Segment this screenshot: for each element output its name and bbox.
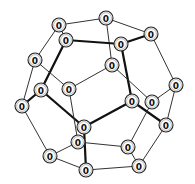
graph-node: 0: [62, 82, 76, 96]
node-label: 0: [47, 152, 53, 162]
node-label: 0: [56, 21, 62, 31]
graph-node: 0: [105, 58, 119, 72]
edge-E-L: [121, 44, 132, 101]
graph-node: 0: [34, 83, 48, 97]
node-label: 0: [129, 97, 135, 107]
node-label: 0: [149, 98, 155, 108]
node-label: 0: [32, 56, 38, 66]
edge-K-R: [22, 106, 50, 156]
edge-L-N: [84, 101, 132, 127]
nodes-layer: 00000000000000000000: [15, 11, 183, 177]
edge-D-I: [41, 40, 66, 90]
graph-node: 0: [169, 78, 183, 92]
graph-node: 0: [144, 27, 158, 41]
graph-node: 0: [43, 149, 57, 163]
node-label: 0: [103, 14, 109, 24]
dodecahedron-graph: 00000000000000000000: [0, 0, 195, 184]
node-label: 0: [136, 162, 142, 172]
edge-D-E: [66, 40, 121, 44]
graph-node: 0: [79, 163, 93, 177]
edge-C-H: [151, 34, 176, 85]
node-label: 0: [125, 143, 131, 153]
node-label: 0: [173, 81, 179, 91]
node-label: 0: [38, 86, 44, 96]
graph-node: 0: [145, 95, 159, 109]
node-label: 0: [63, 36, 69, 46]
edge-M-Q: [128, 102, 152, 147]
graph-node: 0: [28, 53, 42, 67]
node-label: 0: [83, 166, 89, 176]
node-label: 0: [118, 40, 124, 50]
graph-node: 0: [99, 11, 113, 25]
node-label: 0: [81, 123, 87, 133]
graph-node: 0: [52, 18, 66, 32]
node-label: 0: [75, 138, 81, 148]
graph-node: 0: [121, 140, 135, 154]
node-label: 0: [66, 85, 72, 95]
graph-node: 0: [15, 99, 29, 113]
node-label: 0: [163, 121, 169, 131]
graph-node: 0: [77, 120, 91, 134]
node-label: 0: [19, 102, 25, 112]
graph-node: 0: [59, 33, 73, 47]
graph-node: 0: [159, 118, 173, 132]
graph-node: 0: [125, 94, 139, 108]
node-label: 0: [109, 61, 115, 71]
graph-node: 0: [71, 135, 85, 149]
graph-node: 0: [132, 159, 146, 173]
node-label: 0: [148, 30, 154, 40]
graph-node: 0: [114, 37, 128, 51]
edge-S-T: [86, 166, 139, 170]
edge-I-N: [41, 90, 84, 127]
